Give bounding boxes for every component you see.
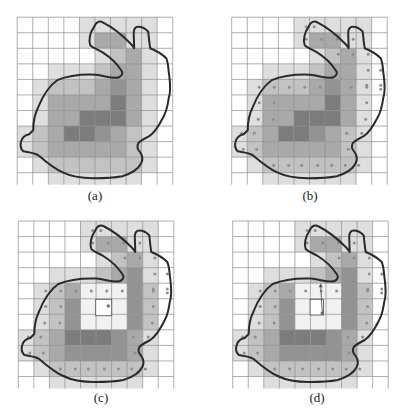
voxel-cell bbox=[278, 95, 294, 111]
voxel-cell bbox=[111, 95, 127, 111]
panel-label-a: (a) bbox=[88, 188, 102, 204]
voxel-cell bbox=[279, 221, 295, 237]
voxel-cell bbox=[232, 79, 248, 95]
voxel-cell bbox=[356, 17, 372, 33]
voxel-cell bbox=[247, 157, 263, 173]
voxel-cell bbox=[233, 283, 249, 299]
voxel-cell bbox=[18, 252, 34, 268]
panel-a bbox=[17, 17, 173, 185]
voxel-cell bbox=[294, 48, 310, 64]
voxel-cell bbox=[96, 345, 112, 361]
bunny-voxel-figure: (a) (b) (c) (d) bbox=[0, 0, 402, 419]
voxel-cell bbox=[79, 64, 95, 80]
voxel-cell bbox=[64, 157, 80, 173]
voxel-cell bbox=[158, 299, 174, 315]
voxel-cell bbox=[325, 17, 341, 33]
voxel-cell bbox=[127, 268, 143, 284]
voxel-cell bbox=[342, 252, 358, 268]
voxel-cell bbox=[126, 79, 142, 95]
voxel-cell bbox=[96, 314, 112, 330]
voxel-cell bbox=[295, 252, 311, 268]
voxel-cell bbox=[157, 157, 173, 173]
voxel-cell bbox=[81, 283, 97, 299]
voxel-cell bbox=[48, 33, 64, 49]
voxel-cell bbox=[278, 126, 294, 142]
voxel-cell bbox=[325, 173, 341, 185]
voxel-cell bbox=[294, 111, 310, 127]
voxel-cell bbox=[95, 95, 111, 111]
voxel-cell bbox=[81, 330, 97, 346]
voxel-cell bbox=[33, 48, 49, 64]
voxel-cell bbox=[126, 142, 142, 158]
voxel-cell bbox=[295, 345, 311, 361]
voxel-cell bbox=[357, 314, 373, 330]
voxel-cell bbox=[326, 345, 342, 361]
voxel-cell bbox=[309, 142, 325, 158]
panel-d bbox=[233, 221, 389, 389]
voxel-cell bbox=[294, 126, 310, 142]
voxel-cell bbox=[372, 95, 388, 111]
voxel-cell bbox=[95, 142, 111, 158]
figure-canvas bbox=[0, 0, 402, 419]
voxel-cell bbox=[79, 79, 95, 95]
selected-voxel-box bbox=[96, 299, 112, 315]
voxel-cell bbox=[81, 314, 97, 330]
voxel-cell bbox=[342, 283, 358, 299]
voxel-cell bbox=[79, 111, 95, 127]
voxel-cell bbox=[233, 361, 249, 377]
voxel-cell bbox=[65, 237, 81, 253]
voxel-cell bbox=[95, 111, 111, 127]
voxel-cell bbox=[356, 64, 372, 80]
voxel-cell bbox=[112, 283, 128, 299]
voxel-cell bbox=[342, 268, 358, 284]
voxel-cell bbox=[263, 173, 279, 185]
voxel-cell bbox=[64, 17, 80, 33]
voxel-cell bbox=[248, 268, 264, 284]
voxel-cell bbox=[34, 377, 50, 389]
voxel-cell bbox=[158, 377, 174, 389]
voxel-cell bbox=[112, 377, 128, 389]
voxel-cell bbox=[326, 314, 342, 330]
voxel-cell bbox=[279, 330, 295, 346]
voxel-cell bbox=[357, 377, 373, 389]
voxel-cell bbox=[48, 95, 64, 111]
voxel-cell bbox=[49, 299, 65, 315]
voxel-cell bbox=[325, 126, 341, 142]
voxel-cell bbox=[96, 330, 112, 346]
voxel-cell bbox=[310, 345, 326, 361]
voxel-cell bbox=[295, 283, 311, 299]
voxel-cell bbox=[310, 330, 326, 346]
voxel-cell bbox=[264, 345, 280, 361]
voxel-cell bbox=[126, 64, 142, 80]
panel-label-b: (b) bbox=[302, 188, 317, 204]
voxel-cell bbox=[18, 268, 34, 284]
voxel-cell bbox=[372, 157, 388, 173]
voxel-cell bbox=[33, 126, 49, 142]
voxel-cell bbox=[309, 111, 325, 127]
voxel-cell bbox=[34, 361, 50, 377]
voxel-cell bbox=[48, 111, 64, 127]
voxel-cell bbox=[142, 173, 158, 185]
voxel-cell bbox=[264, 299, 280, 315]
voxel-cell bbox=[17, 79, 33, 95]
voxel-cell bbox=[127, 314, 143, 330]
voxel-cell bbox=[17, 33, 33, 49]
voxel-cell bbox=[310, 283, 326, 299]
voxel-cell bbox=[325, 79, 341, 95]
voxel-cell bbox=[111, 17, 127, 33]
voxel-cell bbox=[233, 345, 249, 361]
voxel-cell bbox=[95, 79, 111, 95]
voxel-cell bbox=[17, 173, 33, 185]
voxel-cell bbox=[342, 314, 358, 330]
voxel-cell bbox=[158, 361, 174, 377]
voxel-cell bbox=[81, 252, 97, 268]
voxel-cell bbox=[294, 95, 310, 111]
voxel-cell bbox=[65, 330, 81, 346]
voxel-cell bbox=[279, 314, 295, 330]
voxel-cell bbox=[18, 237, 34, 253]
voxel-cell bbox=[64, 126, 80, 142]
voxel-cell bbox=[65, 221, 81, 237]
voxel-cell bbox=[372, 33, 388, 49]
voxel-cell bbox=[17, 157, 33, 173]
panel-c bbox=[18, 221, 174, 389]
